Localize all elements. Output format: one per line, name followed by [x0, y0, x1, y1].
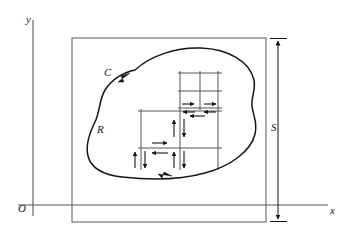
cancellation-arrows — [135, 104, 216, 168]
greens-theorem-diagram — [0, 0, 345, 238]
cancel-arrow-pair-v3 — [135, 151, 145, 168]
boundary-curve-c — [87, 48, 256, 179]
figure-container: y x O C R S — [0, 0, 345, 238]
origin-label: O — [18, 203, 26, 214]
boundary-curve-path — [87, 48, 256, 179]
x-axis-label: x — [330, 205, 335, 216]
cancel-arrow-pair-v2 — [174, 151, 184, 168]
internal-grid — [138, 71, 222, 170]
coordinate-axes — [18, 20, 328, 216]
curve-label-c: C — [104, 67, 111, 78]
y-axis-label: y — [26, 14, 31, 25]
curve-orientation-arrow-bottom — [158, 172, 172, 178]
square-side-label-s: S — [271, 122, 277, 133]
cancel-arrow-pair-v1 — [174, 119, 184, 137]
region-label-r: R — [97, 124, 104, 135]
